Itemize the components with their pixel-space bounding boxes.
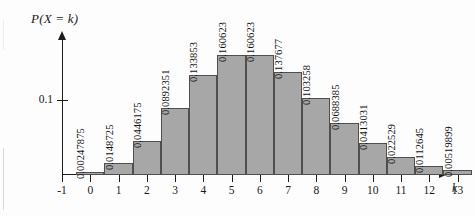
bar-value-label: 0.160623	[245, 22, 256, 62]
x-axis-tick	[119, 175, 120, 182]
x-axis-tick	[288, 175, 289, 182]
bar-value-label: 0.133853	[188, 42, 199, 82]
x-axis-tick	[62, 175, 63, 182]
bar-value-label: 0.0148725	[104, 124, 115, 170]
histogram-bar	[330, 123, 358, 175]
y-axis-tick-label: 0.1	[19, 93, 53, 105]
x-axis-tick-label: 5	[219, 184, 245, 196]
x-axis-tick-label: -1	[49, 184, 75, 196]
x-axis-tick	[401, 175, 402, 182]
histogram-bar	[161, 108, 189, 175]
scan-artifact-line	[3, 148, 4, 210]
x-axis-tick-label: 2	[134, 184, 160, 196]
bar-value-label: 0.0112645	[414, 128, 425, 173]
x-axis-tick-label: 6	[247, 184, 273, 196]
x-axis-tick-label: 12	[416, 184, 442, 196]
bar-value-label: 0.00247875	[75, 128, 86, 179]
x-axis-tick-label: 0	[77, 184, 103, 196]
x-axis-tick	[203, 175, 204, 182]
histogram-bar	[274, 72, 302, 175]
x-axis-tick	[429, 175, 430, 182]
y-axis-line	[62, 38, 63, 175]
x-axis-tick	[175, 175, 176, 182]
histogram-bar	[217, 55, 245, 175]
x-axis-tick-label: 13	[445, 184, 471, 196]
bar-value-label: 0.103258	[301, 64, 312, 104]
x-axis-tick-label: 3	[162, 184, 188, 196]
x-axis-tick	[345, 175, 346, 182]
x-axis-tick	[316, 175, 317, 182]
x-axis-tick-label: 7	[275, 184, 301, 196]
bar-value-label: 0.0688385	[330, 85, 341, 131]
x-axis-tick	[90, 175, 91, 182]
x-axis-tick-label: 4	[190, 184, 216, 196]
x-axis-tick-label: 9	[332, 184, 358, 196]
x-axis-tick-label: 1	[106, 184, 132, 196]
x-axis-tick	[458, 175, 459, 182]
histogram-bar	[246, 55, 274, 175]
bar-value-label: 0.160623	[217, 22, 228, 62]
x-axis-tick-label: 8	[303, 184, 329, 196]
y-axis-arrow-icon	[58, 31, 66, 40]
x-axis-tick	[260, 175, 261, 182]
bar-value-label: 0.0446175	[132, 102, 143, 148]
scan-artifact-line-upper	[3, 20, 4, 50]
y-axis-tick	[57, 100, 68, 101]
y-axis-title: P(X = k)	[31, 11, 78, 27]
bar-value-label: 0.0892351	[160, 69, 171, 115]
x-axis-tick	[147, 175, 148, 182]
x-axis-tick-label: 11	[388, 184, 414, 196]
bar-value-label: 0.0413031	[358, 105, 369, 151]
x-axis-tick	[232, 175, 233, 182]
bar-value-label: 0.022529	[386, 124, 397, 164]
histogram-bar	[189, 75, 217, 175]
x-axis-tick-label: 10	[360, 184, 386, 196]
bar-value-label: 0.137677	[273, 39, 284, 79]
histogram-bar	[302, 98, 330, 175]
probability-mass-function-chart: P(X = k) k 0.1 -1012345678910111213 0.00…	[0, 0, 475, 216]
x-axis-tick	[373, 175, 374, 182]
bar-value-label: 0.00519899	[443, 126, 454, 177]
